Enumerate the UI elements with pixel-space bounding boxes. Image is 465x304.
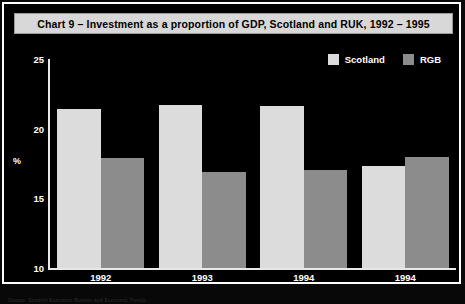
- x-axis-tick-0: 1992: [90, 272, 111, 283]
- chart-frame: Chart 9 – Investment as a proportion of …: [2, 2, 461, 284]
- bar-scotland-1994-2: [260, 106, 304, 268]
- figure-caption-strip: Source: Scottish Economic Bulletin and E…: [0, 286, 465, 304]
- bar-rgb-1994-2: [304, 170, 348, 268]
- x-axis-tick-2: 1994: [293, 272, 314, 283]
- y-axis-tick-10: 10: [20, 263, 44, 274]
- y-axis-tick-20: 20: [20, 123, 44, 134]
- x-axis-line: [48, 268, 456, 270]
- bar-group: [253, 59, 355, 268]
- y-axis-tick-15: 15: [20, 193, 44, 204]
- x-axis-tick-1: 1993: [192, 272, 213, 283]
- bar-group: [355, 59, 457, 268]
- y-axis-title: %: [13, 156, 21, 166]
- bar-rgb-1994-3: [405, 157, 449, 268]
- bar-groups: [50, 59, 456, 268]
- chart-figure: Chart 9 – Investment as a proportion of …: [0, 0, 465, 304]
- bar-rgb-1993-1: [202, 172, 246, 268]
- bar-rgb-1992-0: [101, 158, 145, 268]
- plot-area: % 10152025 1992199319941994: [4, 4, 463, 286]
- bar-group: [152, 59, 254, 268]
- bar-scotland-1993-1: [159, 105, 203, 268]
- figure-caption: Source: Scottish Economic Bulletin and E…: [8, 297, 146, 303]
- x-axis-tick-3: 1994: [395, 272, 416, 283]
- y-axis-tick-25: 25: [20, 54, 44, 65]
- bar-group: [50, 59, 152, 268]
- bar-scotland-1994-3: [362, 166, 406, 268]
- bar-scotland-1992-0: [57, 109, 101, 268]
